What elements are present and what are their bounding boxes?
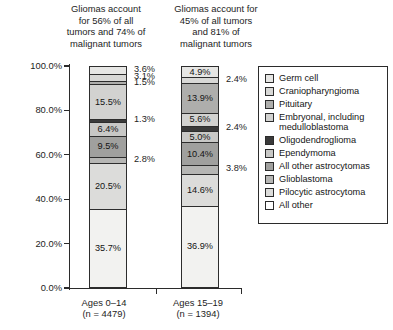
legend-item-ependymoma[interactable]: Ependymoma	[265, 148, 382, 159]
legend-item-label: Oligodendroglioma	[279, 135, 356, 146]
segment-value-label: 20.5%	[95, 182, 121, 191]
legend-swatch-icon	[265, 201, 274, 210]
bar-segment-all-other[interactable]: 35.7%	[90, 209, 126, 288]
legend-swatch-icon	[265, 100, 274, 109]
bar1-annotation: Gliomas account for 56% of all tumors an…	[52, 3, 160, 49]
bar-segment-pilocytic-astrocytoma[interactable]: 14.6%	[182, 174, 218, 206]
y-axis-label-400: 40.0%	[1, 193, 62, 204]
y-axis-label-00: 0.0%	[1, 282, 62, 293]
legend-item-pilocytic-astrocytoma[interactable]: Pilocytic astrocytoma	[265, 187, 382, 198]
x-tick-label-ages-15-19: Ages 15–19 (n = 1394)	[146, 297, 250, 320]
legend-item-all-other[interactable]: All other	[265, 200, 382, 211]
segment-callout-oligodendroglioma: 1.3%	[134, 114, 155, 124]
bar-segment-all-other-astrocytomas[interactable]: 9.5%	[90, 136, 126, 157]
segment-callout-craniopharyngioma: 2.4%	[226, 74, 247, 84]
bar-segment-pituitary[interactable]: 13.9%	[182, 83, 218, 114]
legend-item-craniopharyngioma[interactable]: Craniopharyngioma	[265, 86, 382, 97]
legend-item-label: Pilocytic astrocytoma	[279, 187, 365, 198]
x-axis-tick	[241, 288, 242, 294]
segment-value-label: 15.5%	[95, 98, 121, 107]
legend-item-label: Pituitary	[279, 99, 312, 110]
y-axis-label-1000: 100.0%	[1, 60, 62, 71]
segment-value-label: 14.6%	[187, 186, 213, 195]
bar-segment-germ-cell[interactable]	[90, 66, 126, 74]
legend-item-label: All other astrocytomas	[279, 161, 370, 172]
segment-callout-oligodendroglioma: 2.4%	[226, 122, 247, 132]
segment-value-label: 5.0%	[190, 133, 211, 142]
bar-segment-pilocytic-astrocytoma[interactable]: 20.5%	[90, 163, 126, 209]
x-axis-tick	[156, 288, 157, 294]
y-axis-label-800: 80.0%	[1, 104, 62, 115]
legend-item-oligodendroglioma[interactable]: Oligodendroglioma	[265, 135, 382, 146]
stacked-bar-chart-figure: Gliomas account for 56% of all tumors an…	[0, 0, 393, 330]
segment-value-label: 5.6%	[190, 115, 211, 124]
legend-item-label: Embryonal, including medulloblastoma	[279, 112, 364, 133]
legend-swatch-icon	[265, 113, 274, 122]
x-tick-label-ages-0-14: Ages 0–14 (n = 4479)	[52, 297, 156, 320]
bar-segment-embryonal[interactable]: 15.5%	[90, 84, 126, 118]
segment-callout-glioblastoma: 2.8%	[134, 154, 155, 164]
segment-value-label: 4.9%	[190, 68, 211, 77]
bar-segment-ependymoma[interactable]: 5.0%	[182, 131, 218, 142]
legend-swatch-icon	[265, 175, 274, 184]
bar-segment-embryonal[interactable]: 5.6%	[182, 113, 218, 125]
bar-segment-all-other[interactable]: 36.9%	[182, 206, 218, 288]
segment-value-label: 13.9%	[187, 94, 213, 103]
legend-swatch-icon	[265, 149, 274, 158]
legend-swatch-icon	[265, 162, 274, 171]
legend-item-all-other-astrocytomas[interactable]: All other astrocytomas	[265, 161, 382, 172]
bar2-annotation: Gliomas account for 45% of all tumors an…	[160, 3, 272, 49]
segment-callout-pituitary: 1.5%	[134, 77, 155, 87]
bar-ages-0-14[interactable]: 15.5%6.4%9.5%20.5%35.7%	[89, 66, 127, 288]
segment-value-label: 6.4%	[98, 125, 119, 134]
segment-value-label: 9.5%	[98, 142, 119, 151]
legend-item-label: Ependymoma	[279, 148, 336, 159]
legend-item-label: All other	[279, 200, 313, 211]
legend-swatch-icon	[265, 188, 274, 197]
legend-swatch-icon	[265, 74, 274, 83]
plot-area: 15.5%6.4%9.5%20.5%35.7% 4.9%13.9%5.6%5.0…	[70, 66, 240, 288]
bar-ages-15-19[interactable]: 4.9%13.9%5.6%5.0%10.4%14.6%36.9%	[181, 66, 219, 288]
bar-segment-germ-cell[interactable]: 4.9%	[182, 66, 218, 77]
bar-segment-ependymoma[interactable]: 6.4%	[90, 122, 126, 136]
segment-value-label: 10.4%	[187, 150, 213, 159]
segment-callout-glioblastoma: 3.8%	[226, 163, 247, 173]
legend-item-germ-cell[interactable]: Germ cell	[265, 73, 382, 84]
bar-segment-craniopharyngioma[interactable]	[90, 74, 126, 81]
y-axis-label-200: 20.0%	[1, 238, 62, 249]
segment-value-label: 35.7%	[95, 244, 121, 253]
legend-item-embryonal-including[interactable]: Embryonal, including medulloblastoma	[265, 112, 382, 133]
legend-item-pituitary[interactable]: Pituitary	[265, 99, 382, 110]
bar-segment-glioblastoma[interactable]	[182, 165, 218, 173]
legend-swatch-icon	[265, 136, 274, 145]
bar-segment-all-other-astrocytomas[interactable]: 10.4%	[182, 142, 218, 165]
legend-item-label: Germ cell	[279, 73, 318, 84]
y-axis-label-600: 60.0%	[1, 149, 62, 160]
legend-swatch-icon	[265, 87, 274, 96]
legend-item-glioblastoma[interactable]: Glioblastoma	[265, 174, 382, 185]
legend-item-label: Craniopharyngioma	[279, 86, 359, 97]
legend-item-label: Glioblastoma	[279, 174, 333, 185]
legend: Germ cellCraniopharyngiomaPituitaryEmbry…	[258, 66, 388, 224]
segment-value-label: 36.9%	[187, 242, 213, 251]
